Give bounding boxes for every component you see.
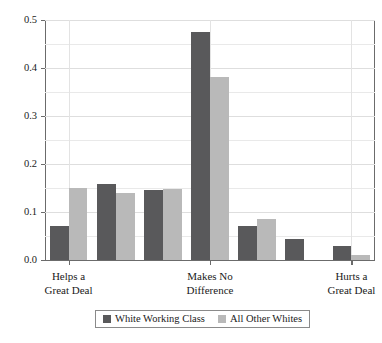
- x-axis-tick-mark: [210, 260, 211, 265]
- bar: [238, 226, 257, 260]
- y-axis-tick-label: 0.4: [3, 63, 37, 74]
- bar: [50, 226, 69, 260]
- legend-item: White Working Class: [103, 314, 205, 325]
- bar: [210, 77, 229, 260]
- legend-swatch-icon: [103, 315, 111, 323]
- x-axis-tick-mark: [69, 260, 70, 265]
- x-axis-tick-label: Helps a Great Deal: [9, 270, 129, 297]
- bar: [116, 193, 135, 260]
- y-axis-tick-label: 0.0: [3, 255, 37, 266]
- legend-label: White Working Class: [115, 314, 205, 325]
- bar: [144, 190, 163, 260]
- x-axis-tick-label: Makes No Difference: [150, 270, 270, 297]
- legend-label: All Other Whites: [230, 314, 302, 325]
- bar: [285, 239, 304, 260]
- bar-chart: 0.00.10.20.30.40.5 Helps a Great DealMak…: [0, 0, 382, 343]
- y-axis-tick-label: 0.2: [3, 159, 37, 170]
- legend-swatch-icon: [218, 315, 226, 323]
- chart-legend: White Working ClassAll Other Whites: [95, 310, 310, 328]
- bar: [333, 246, 352, 260]
- y-axis-tick-label: 0.5: [3, 15, 37, 26]
- x-axis-tick-label: Hurts a Great Deal: [291, 270, 382, 297]
- legend-item: All Other Whites: [218, 314, 302, 325]
- bar: [97, 184, 116, 260]
- y-axis-tick-label: 0.3: [3, 111, 37, 122]
- bar: [69, 188, 88, 260]
- x-axis-tick-mark: [351, 260, 352, 265]
- y-axis-tick-mark: [41, 260, 45, 261]
- bar: [191, 32, 210, 260]
- bars-layer: [45, 20, 375, 260]
- bar: [351, 255, 370, 260]
- bar: [257, 219, 276, 260]
- bar: [163, 189, 182, 260]
- y-axis-tick-label: 0.1: [3, 207, 37, 218]
